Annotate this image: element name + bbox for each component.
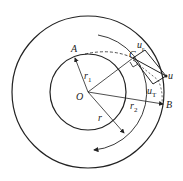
label-o: O bbox=[76, 92, 83, 102]
label-b: B bbox=[166, 100, 172, 110]
label-ut: uT bbox=[147, 86, 156, 99]
label-u: u bbox=[168, 71, 173, 81]
label-r1: r1 bbox=[84, 71, 91, 84]
dashed-arc-ac bbox=[85, 52, 133, 58]
label-c: C bbox=[129, 50, 136, 60]
label-r2: r2 bbox=[130, 101, 137, 114]
dashed-curve-b bbox=[158, 80, 162, 103]
label-ur: ur bbox=[137, 40, 144, 53]
radius-r bbox=[88, 92, 124, 133]
label-a: A bbox=[71, 44, 77, 54]
diagram: A C O B u r1 r2 r ur uT bbox=[0, 0, 183, 181]
label-r: r bbox=[98, 113, 102, 123]
